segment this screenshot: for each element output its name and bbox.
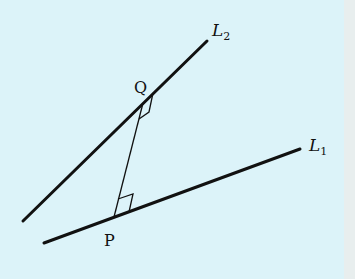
label-q: Q [134,78,147,97]
label-l2: L2 [211,20,230,43]
segment-pq [114,103,143,217]
diagram-canvas: L2 L1 Q P [0,0,355,279]
label-p: P [104,231,115,250]
right-angle-mark-p [118,194,133,212]
label-l1: L1 [308,135,327,158]
geometry-figure: L2 L1 Q P [0,0,355,279]
